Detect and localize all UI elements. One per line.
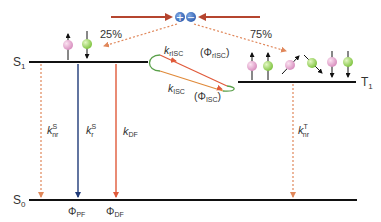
- green-sphere-icon: [82, 39, 92, 49]
- singlet-spin-pair: [63, 31, 92, 60]
- phi-risc-label: (ΦrISC): [200, 46, 229, 59]
- krisc-label: krISC: [164, 44, 183, 57]
- positive-charge-icon: +: [175, 12, 185, 23]
- phi-isc-label: (ΦISC): [194, 90, 221, 103]
- svg-text:−: −: [187, 12, 195, 23]
- jablonski-diagram: + − 25% 75% S1 T1 S0: [0, 0, 381, 222]
- triplet-percent-label: 75%: [250, 28, 272, 40]
- kr-s-label: kSr: [86, 123, 97, 138]
- kdf-label: kDF: [123, 125, 138, 138]
- singlet-percent-label: 25%: [100, 28, 122, 40]
- phi-pf-label: ΦPF: [68, 205, 85, 218]
- pink-sphere-icon: [63, 40, 73, 50]
- knr-s-label: kSnr: [47, 123, 59, 138]
- triplet-spin-states: [247, 51, 353, 80]
- svg-text:+: +: [176, 12, 184, 23]
- s0-label: S0: [13, 193, 26, 209]
- kisc-label: kISC: [168, 82, 185, 95]
- s1-label: S1: [13, 55, 26, 71]
- phi-df-label: ΦDF: [106, 205, 124, 218]
- t1-label: T1: [361, 75, 373, 91]
- negative-charge-icon: −: [186, 12, 196, 23]
- knr-t-label: kTnr: [298, 123, 310, 138]
- isc-risc-loop: [150, 55, 235, 91]
